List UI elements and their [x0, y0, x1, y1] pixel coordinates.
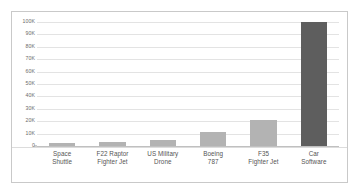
x-tick-label-line: Fighter Jet	[238, 158, 288, 166]
x-axis-rule	[12, 147, 347, 148]
y-tick-label: 70K	[25, 57, 35, 62]
x-tick-label-line: Space	[37, 150, 87, 158]
x-tick-label-line: F35	[238, 150, 288, 158]
x-tick-label-line: Shuttle	[37, 158, 87, 166]
y-tick-label: 90K	[25, 32, 35, 37]
x-tick-label-line: Software	[289, 158, 339, 166]
y-tick-label: 20K	[25, 119, 35, 124]
y-tick-label: 30K	[25, 106, 35, 111]
x-tick-label: F35Fighter Jet	[238, 150, 288, 167]
y-tick-label: 10K	[25, 131, 35, 136]
x-tick-label: Boeing787	[188, 150, 238, 167]
bar[interactable]	[150, 140, 176, 146]
x-tick-label-line: Boeing	[188, 150, 238, 158]
bar[interactable]	[99, 142, 125, 146]
x-tick-label: SpaceShuttle	[37, 150, 87, 167]
bar[interactable]	[49, 143, 75, 146]
y-tick-label: 40K	[25, 94, 35, 99]
bar[interactable]	[200, 132, 226, 146]
bars-group	[37, 22, 339, 146]
x-tick-label: CarSoftware	[289, 150, 339, 167]
bar[interactable]	[250, 120, 276, 146]
x-tick-label: US MilitaryDrone	[138, 150, 188, 167]
y-tick-label: 80K	[25, 44, 35, 49]
x-tick-label-line: Car	[289, 150, 339, 158]
bar-chart-figure: 010K20K30K40K50K60K70K80K90K100K SpaceSh…	[0, 0, 363, 196]
x-tick-label-line: Fighter Jet	[87, 158, 137, 166]
y-tick-label: 100K	[22, 19, 35, 24]
x-tick-label-line: 787	[188, 158, 238, 166]
x-tick-label-line: US Military	[138, 150, 188, 158]
x-tick-label-line: F22 Raptor	[87, 150, 137, 158]
x-tick-label: F22 RaptorFighter Jet	[87, 150, 137, 167]
y-axis: 010K20K30K40K50K60K70K80K90K100K	[11, 22, 35, 146]
x-axis: SpaceShuttleF22 RaptorFighter JetUS Mili…	[37, 150, 339, 176]
y-tick-label: 50K	[25, 81, 35, 86]
x-tick-label-line: Drone	[138, 158, 188, 166]
y-tick-label: 60K	[25, 69, 35, 74]
y-tick-mark-zero	[34, 146, 37, 147]
bar[interactable]	[301, 22, 327, 146]
